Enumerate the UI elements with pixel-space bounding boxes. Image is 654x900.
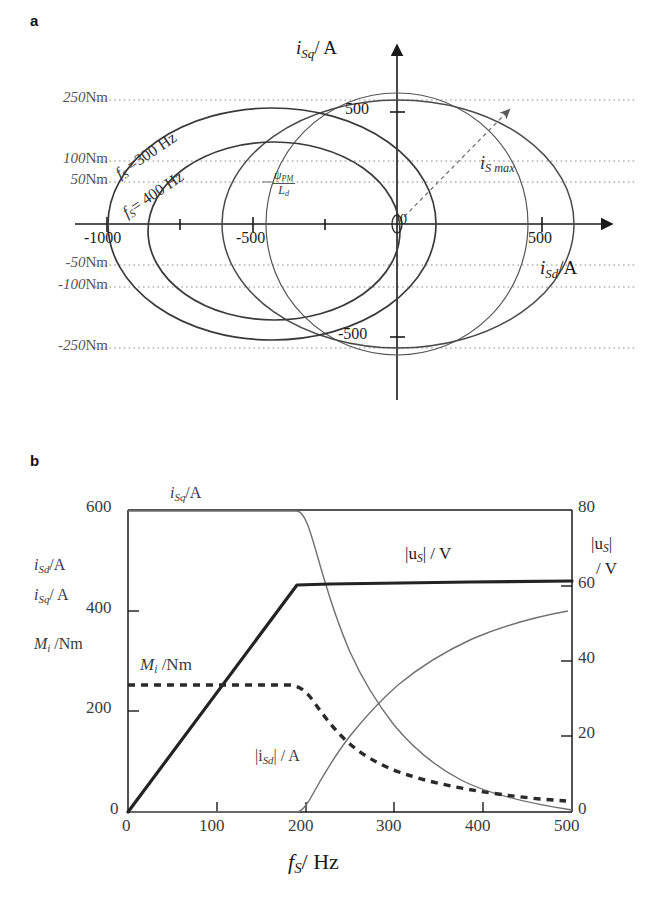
flux-fraction: ψPM Ld (272, 169, 295, 199)
panel-a-origin-label: 0 (400, 213, 407, 228)
panel-a: a (0, 0, 654, 440)
curve-mi (128, 685, 566, 801)
panel-a-plot (0, 0, 654, 440)
panel-b-right-ticks (561, 586, 572, 736)
torque-label-neg50: -50Nm (8, 255, 108, 271)
torque-label-100: 100Nm (18, 151, 108, 167)
panel-a-x-tick-neg1000: -1000 (84, 230, 121, 247)
torque-label-neg100: -100Nm (8, 277, 108, 293)
curve-us (128, 581, 572, 812)
panel-b-right-tick-40: 40 (578, 649, 595, 667)
panel-b-left-axis-label-isd: iSd/A (34, 557, 65, 575)
curve-label-isq: iSq/A (170, 485, 201, 503)
panel-b-x-ticks (217, 802, 483, 812)
curve-isd (128, 611, 568, 812)
panel-a-y-tick-neg500: -500 (338, 326, 367, 343)
panel-b-frame (128, 510, 572, 812)
panel-b-left-tick-200: 200 (86, 699, 112, 717)
flux-over-ld-annotation: ψPM Ld (272, 169, 295, 199)
panel-b: b (0, 440, 654, 900)
panel-b-right-tick-80: 80 (578, 498, 595, 516)
panel-b-x-tick-500: 500 (554, 817, 580, 835)
panel-b-right-axis-unit: / V (596, 560, 617, 578)
panel-a-x-axis-label: iSd/A (540, 258, 577, 280)
panel-b-x-tick-400: 400 (465, 817, 491, 835)
panel-b-x-tick-100: 100 (199, 817, 225, 835)
panel-b-x-tick-200: 200 (288, 817, 314, 835)
panel-b-right-axis-label: |uS| (591, 535, 612, 555)
panel-a-y-tick-500: 500 (345, 101, 369, 118)
panel-b-left-axis-label-mi: Mi /Nm (34, 636, 83, 654)
panel-b-right-tick-60: 60 (578, 574, 595, 592)
panel-b-left-tick-400: 400 (86, 599, 112, 617)
panel-b-x-tick-300: 300 (376, 817, 402, 835)
panel-a-y-axis-label: iSq/ A (296, 38, 337, 60)
torque-label-neg250: -250Nm (8, 338, 108, 354)
torque-label-50: 50Nm (18, 172, 108, 188)
panel-a-x-tick-neg500: -500 (236, 230, 265, 247)
panel-b-x-axis-label: fS/ Hz (288, 850, 339, 877)
panel-b-left-tick-0: 0 (110, 800, 119, 818)
panel-a-axes (75, 45, 612, 400)
panel-b-left-ticks (128, 611, 139, 711)
panel-b-right-tick-20: 20 (578, 724, 595, 742)
ismax-label: iS max (480, 154, 515, 175)
panel-a-x-tick-500: 500 (528, 230, 552, 247)
curve-label-us: |uS| / V (405, 545, 451, 565)
panel-b-x-tick-0: 0 (122, 817, 131, 835)
curve-label-mi: Mi /Nm (140, 656, 192, 676)
curve-label-isd: |iSd| / A (255, 748, 300, 766)
panel-b-left-tick-600: 600 (86, 498, 112, 516)
torque-label-250: 250Nm (18, 90, 108, 106)
panel-b-left-axis-label-isq: iSq/ A (34, 587, 68, 605)
curve-isq (128, 511, 572, 810)
